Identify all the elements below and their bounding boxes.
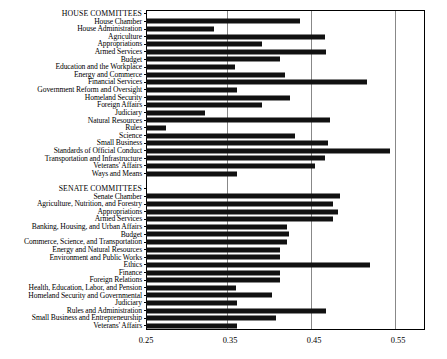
bar-row: Judiciary [0, 109, 447, 117]
bar-track [146, 147, 447, 155]
bar [146, 262, 370, 267]
bar-row: Finance [0, 269, 447, 277]
bar [146, 217, 333, 222]
bar-row: Ways and Means [0, 170, 447, 178]
bar-row: Transportation and Infrastructure [0, 155, 447, 163]
bar-track [146, 155, 447, 163]
x-axis-tick-labels: 0.250.350.450.55 [0, 336, 447, 356]
bar [146, 42, 262, 47]
bar [146, 110, 205, 115]
bar-row: Veterans' Affairs [0, 162, 447, 170]
bar [146, 156, 325, 161]
bar [146, 202, 333, 207]
bar [146, 49, 326, 54]
bar [146, 194, 340, 199]
bar [146, 278, 280, 283]
bar-track [146, 307, 447, 315]
bar-track [146, 261, 447, 269]
bar-row: Appropriations [0, 40, 447, 48]
bar-row: Government Reform and Oversight [0, 86, 447, 94]
bar [146, 300, 237, 305]
bar-track [146, 101, 447, 109]
bar-track [146, 322, 447, 330]
bar-row: Natural Resources [0, 117, 447, 125]
bar [146, 118, 330, 123]
category-label: Natural Resources [0, 117, 144, 125]
bar-row: Education and the Workplace [0, 63, 447, 71]
bar [146, 316, 276, 321]
bar-track [146, 71, 447, 79]
bar [146, 209, 338, 214]
bar-track [146, 292, 447, 300]
bar [146, 232, 289, 237]
bar [146, 57, 280, 62]
bar-track [146, 86, 447, 94]
bar-row: Homeland Security [0, 94, 447, 102]
bar-rows-container: HOUSE COMMITTEESHouse ChamberHouse Admin… [0, 10, 447, 330]
x-tick-label: 0.25 [139, 336, 154, 345]
bar [146, 65, 235, 70]
bar-track [146, 117, 447, 125]
bar [146, 27, 214, 32]
bar-row: House Administration [0, 25, 447, 33]
bar-track [146, 276, 447, 284]
bar-track [146, 48, 447, 56]
bar [146, 133, 295, 138]
bar-track [146, 238, 447, 246]
bar [146, 285, 236, 290]
x-tick-label: 0.45 [307, 336, 322, 345]
bar-track [146, 139, 447, 147]
bar-row: Energy and Commerce [0, 71, 447, 79]
section-heading-row: SENATE COMMITTEES [0, 185, 447, 193]
bar-track [146, 215, 447, 223]
bar-track [146, 284, 447, 292]
bar-row: Rules [0, 124, 447, 132]
bar-track [146, 33, 447, 41]
bar [146, 247, 280, 252]
section-heading-row: HOUSE COMMITTEES [0, 10, 447, 18]
bar [146, 171, 237, 176]
category-label: Environment and Public Works [0, 254, 144, 262]
bar-track [146, 124, 447, 132]
category-label: Veterans' Affairs [0, 322, 144, 330]
bar-row: Foreign Affairs [0, 101, 447, 109]
bar [146, 255, 280, 260]
bar-track [146, 254, 447, 262]
bar [146, 148, 390, 153]
bar [146, 240, 287, 245]
category-label: Ways and Means [0, 170, 144, 178]
bar-row: Homeland Security and Governmental [0, 292, 447, 300]
bar-track [146, 78, 447, 86]
bar-track [146, 246, 447, 254]
bar [146, 87, 237, 92]
bar [146, 95, 290, 100]
bar [146, 308, 326, 313]
bar-track [146, 10, 447, 18]
bar-track [146, 25, 447, 33]
bar-track [146, 109, 447, 117]
bar [146, 270, 280, 275]
bar-row: Science [0, 132, 447, 140]
x-tick-label: 0.35 [223, 336, 238, 345]
bar-row: Banking, Housing, and Urban Affairs [0, 223, 447, 231]
bar-row: Small Business and Entrepreneurship [0, 314, 447, 322]
bar-row: Environment and Public Works [0, 254, 447, 262]
bar-track [146, 18, 447, 26]
bar-track [146, 299, 447, 307]
bar-track [146, 132, 447, 140]
bar-row: Appropriations [0, 208, 447, 216]
bar [146, 163, 315, 168]
bar-track [146, 193, 447, 201]
bar-track [146, 269, 447, 277]
bar-track [146, 170, 447, 178]
bar [146, 34, 325, 39]
bar-row: Veterans' Affairs [0, 322, 447, 330]
bar [146, 141, 328, 146]
bar-track [146, 208, 447, 216]
bar-row: Agriculture [0, 33, 447, 41]
bar-track [146, 314, 447, 322]
bar-track [146, 63, 447, 71]
bar-track [146, 56, 447, 64]
bar-row: House Chamber [0, 18, 447, 26]
bar-row: Ethics [0, 261, 447, 269]
